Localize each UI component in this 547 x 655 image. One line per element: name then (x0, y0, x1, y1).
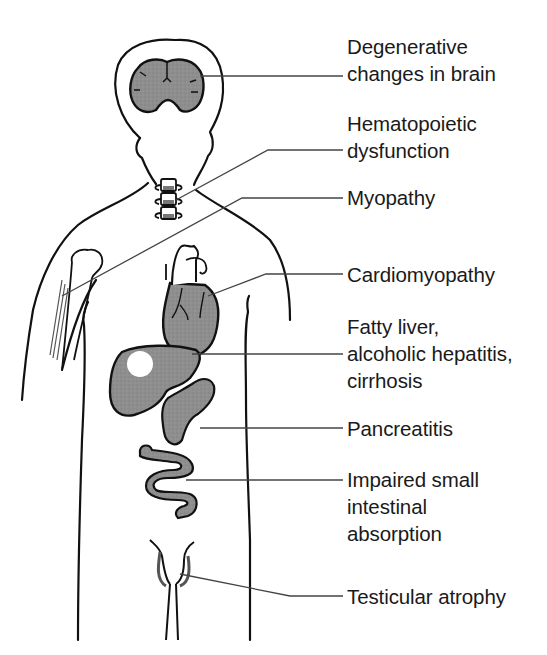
leader-line-heart (208, 274, 343, 296)
liver-lesion-highlight (127, 351, 153, 377)
leader-line-muscle (62, 198, 343, 296)
label-myopathy: Myopathy (347, 184, 435, 211)
arm-muscle-organ (50, 250, 102, 370)
label-testicular: Testicular atrophy (347, 583, 506, 610)
leader-line-testes (180, 574, 343, 596)
body-outline (22, 40, 290, 640)
heart-organ (163, 245, 218, 356)
testes-organ (150, 540, 194, 640)
label-brain: Degenerative changes in brain (347, 33, 496, 87)
label-intestine: Impaired small intestinal absorption (347, 466, 479, 547)
label-hematopoietic: Hematopoietic dysfunction (347, 110, 477, 164)
small-intestine-organ (140, 446, 197, 519)
brain-organ (130, 60, 203, 112)
label-cardiomyopathy: Cardiomyopathy (347, 261, 495, 288)
label-liver: Fatty liver, alcoholic hepatitis, cirrho… (347, 313, 513, 394)
alcohol-effects-diagram: Degenerative changes in brain Hematopoie… (0, 0, 547, 655)
label-pancreatitis: Pancreatitis (347, 415, 453, 442)
